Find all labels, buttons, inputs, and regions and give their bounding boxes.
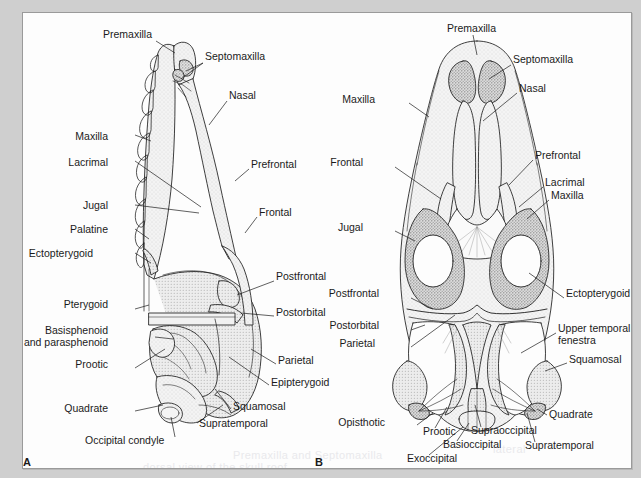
label-upper-temporal-fenestra-b-1: Upper temporal — [558, 323, 630, 335]
label-prefrontal-a: Prefrontal — [251, 159, 297, 171]
scanned-sheet: Premaxilla and Septomaxilla dorsal view … — [22, 12, 632, 469]
label-parietal-b: Parietal — [273, 338, 375, 350]
label-basioccipital-b: Basioccipital — [443, 439, 501, 451]
label-frontal-b: Frontal — [311, 157, 363, 169]
panel-b — [323, 13, 631, 468]
label-lacrimal-b: Lacrimal — [545, 177, 585, 189]
label-lacrimal-a: Lacrimal — [43, 157, 108, 169]
panel-letter-a: A — [23, 456, 31, 468]
label-quadrate-b: Quadrate — [549, 409, 593, 421]
label-basisphenoid-a: Basisphenoid — [22, 325, 108, 337]
label-squamosal-a: Squamosal — [233, 401, 286, 413]
panel-letter-b: B — [315, 456, 323, 468]
label-nasal-b: Nasal — [519, 83, 546, 95]
label-frontal-a: Frontal — [259, 207, 292, 219]
label-postfrontal-a: Postfrontal — [276, 271, 326, 283]
label-parietal-a: Parietal — [278, 355, 314, 367]
label-postfrontal-b: Postfrontal — [273, 288, 379, 300]
label-supraoccipital-b: Supraoccipital — [471, 425, 537, 437]
label-supratemporal-a: Supratemporal — [199, 418, 268, 430]
label-pterygoid-a: Pterygoid — [28, 299, 108, 311]
label-epipterygoid-a: Epipterygoid — [271, 377, 329, 389]
label-occipital-condyle-a: Occipital condyle — [85, 435, 164, 447]
label-opisthotic-b: Opisthotic — [323, 417, 385, 429]
label-prefrontal-b: Prefrontal — [535, 150, 581, 162]
label-jugal-a: Jugal — [53, 200, 108, 212]
label-ectopterygoid-a: Ectopterygoid — [22, 248, 93, 260]
label-premaxilla-b: Premaxilla — [447, 23, 496, 35]
label-quadrate-a: Quadrate — [38, 403, 108, 415]
label-maxilla-b2: Maxilla — [551, 190, 584, 202]
label-postorbital-b: Postorbital — [273, 320, 379, 332]
label-septomaxilla-b: Septomaxilla — [513, 54, 573, 66]
panel-b-skull-drawing — [323, 13, 631, 468]
label-postorbital-a: Postorbital — [276, 307, 326, 319]
label-prootic-a: Prootic — [48, 359, 108, 371]
label-nasal-a: Nasal — [229, 90, 256, 102]
label-supratemporal-b: Supratemporal — [525, 440, 594, 452]
label-jugal-b: Jugal — [315, 222, 363, 234]
label-ectopterygoid-b: Ectopterygoid — [566, 288, 630, 300]
label-maxilla-b: Maxilla — [323, 94, 375, 106]
label-squamosal-b: Squamosal — [569, 354, 622, 366]
label-prootic-b: Prootic — [423, 426, 456, 438]
label-and-parasphenoid-a: and parasphenoid — [22, 337, 108, 349]
label-premaxilla-a: Premaxilla — [103, 29, 152, 41]
label-upper-temporal-fenestra-b-2: fenestra — [558, 335, 596, 347]
figure-page: Premaxilla and Septomaxilla dorsal view … — [0, 0, 641, 478]
label-palatine-a: Palatine — [43, 224, 108, 236]
label-exoccipital-b: Exoccipital — [407, 453, 457, 465]
label-septomaxilla-a: Septomaxilla — [205, 51, 265, 63]
label-maxilla-a: Maxilla — [48, 131, 108, 143]
